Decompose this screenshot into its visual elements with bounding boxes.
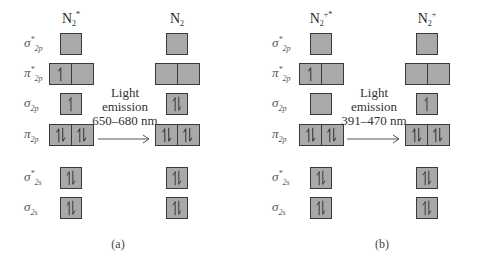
- orbital-subscript: 2p: [35, 74, 43, 83]
- electron-pair-icon: [417, 198, 437, 218]
- orbital-label-sigma-star-2s: σ*2s: [272, 169, 302, 187]
- orbital-label-sigma-star-2p: σ*2p: [272, 35, 302, 53]
- empty-orbital: [167, 34, 187, 54]
- orbital-label-pi-star-2p: π*2p: [272, 65, 302, 83]
- orbital-box-pi-star-2p: [49, 63, 94, 85]
- transition-arrow-icon: [98, 130, 150, 140]
- species-superscript: *: [76, 10, 80, 19]
- species-subscript: 2: [180, 19, 184, 28]
- orbital-subscript: 2p: [34, 44, 42, 53]
- empty-orbital: [177, 64, 199, 84]
- orbital-box-sigma-2p: [60, 93, 82, 115]
- species-superscript: +: [432, 10, 437, 19]
- orbital-subscript: 2p: [30, 104, 38, 113]
- species-subscript: 2: [320, 19, 324, 28]
- emission-label: Lightemission650–680 nm: [80, 86, 170, 128]
- orbital-box-sigma-star-2s: [60, 167, 82, 189]
- electron-up-icon: [61, 94, 81, 114]
- orbital-subscript: 2p: [283, 74, 291, 83]
- empty-orbital: [71, 64, 93, 84]
- emission-label: Lightemission391–470 nm: [329, 86, 419, 128]
- electron-pair-icon: [311, 168, 331, 188]
- orbital-box-sigma-star-2s: [416, 167, 438, 189]
- orbital-star: *: [30, 35, 34, 44]
- electron-pair-icon: [427, 125, 449, 145]
- empty-orbital: [156, 64, 178, 84]
- electron-pair-icon: [156, 125, 178, 145]
- electron-pair-icon: [167, 198, 187, 218]
- species-title: N2+: [402, 10, 452, 28]
- electron-pair-icon: [406, 125, 428, 145]
- orbital-box-sigma-star-2s: [166, 167, 188, 189]
- species-title: N2*: [46, 10, 96, 28]
- orbital-label-sigma-2s: σ2s: [24, 199, 54, 217]
- orbital-star: *: [278, 35, 282, 44]
- species-symbol: N: [310, 11, 320, 26]
- emission-text-line1: Light: [80, 86, 170, 100]
- orbital-box-sigma-2s: [166, 197, 188, 219]
- orbital-box-pi-star-2p: [299, 63, 344, 85]
- orbital-label-sigma-star-2p: σ*2p: [24, 35, 54, 53]
- electron-pair-icon: [321, 125, 343, 145]
- orbital-box-sigma-2s: [310, 197, 332, 219]
- orbital-subscript: 2s: [278, 208, 285, 217]
- empty-orbital: [61, 34, 81, 54]
- orbital-subscript: 2s: [34, 178, 41, 187]
- orbital-box-pi-star-2p: [155, 63, 200, 85]
- empty-orbital: [417, 34, 437, 54]
- species-title: N2: [152, 10, 202, 28]
- orbital-star: *: [31, 65, 35, 74]
- orbital-subscript: 2s: [282, 178, 289, 187]
- empty-orbital: [311, 94, 331, 114]
- orbital-box-sigma-star-2p: [166, 33, 188, 55]
- orbital-box-sigma-star-2p: [60, 33, 82, 55]
- electron-pair-icon: [61, 168, 81, 188]
- orbital-label-pi-2p: π2p: [272, 126, 302, 144]
- orbital-label-sigma-2s: σ2s: [272, 199, 302, 217]
- emission-text-line1: Light: [329, 86, 419, 100]
- emission-text-line3: 650–680 nm: [80, 114, 170, 128]
- orbital-box-sigma-star-2p: [310, 33, 332, 55]
- orbital-label-sigma-star-2s: σ*2s: [24, 169, 54, 187]
- species-title: N2+*: [296, 10, 346, 28]
- species-symbol: N: [170, 11, 180, 26]
- panel-caption: (b): [367, 237, 397, 252]
- species-subscript: 2: [72, 19, 76, 28]
- orbital-box-sigma-star-2p: [416, 33, 438, 55]
- electron-pair-icon: [417, 168, 437, 188]
- orbital-star: *: [279, 65, 283, 74]
- electron-up-icon: [50, 64, 72, 84]
- panel-caption: (a): [103, 237, 133, 252]
- species-subscript: 2: [428, 19, 432, 28]
- empty-orbital: [427, 64, 449, 84]
- orbital-subscript: 2p: [31, 135, 39, 144]
- electron-pair-icon: [71, 125, 93, 145]
- electron-up-icon: [300, 64, 322, 84]
- electron-pair-icon: [61, 198, 81, 218]
- electron-pair-icon: [50, 125, 72, 145]
- orbital-box-pi-star-2p: [405, 63, 450, 85]
- electron-pair-icon: [167, 168, 187, 188]
- electron-pair-icon: [300, 125, 322, 145]
- electron-pair-icon: [167, 94, 187, 114]
- emission-text-line3: 391–470 nm: [329, 114, 419, 128]
- orbital-box-sigma-star-2s: [310, 167, 332, 189]
- transition-arrow-icon: [347, 130, 400, 140]
- species-superscript: +*: [324, 10, 333, 19]
- orbital-star: *: [278, 169, 282, 178]
- electron-up-icon: [417, 94, 437, 114]
- orbital-box-sigma-2s: [60, 197, 82, 219]
- orbital-box-sigma-2s: [416, 197, 438, 219]
- emission-text-line2: emission: [80, 100, 170, 114]
- empty-orbital: [321, 64, 343, 84]
- species-symbol: N: [62, 11, 72, 26]
- orbital-box-sigma-2p: [416, 93, 438, 115]
- orbital-subscript: 2p: [279, 135, 287, 144]
- electron-pair-icon: [177, 125, 199, 145]
- orbital-subscript: 2p: [282, 44, 290, 53]
- empty-orbital: [311, 34, 331, 54]
- empty-orbital: [406, 64, 428, 84]
- emission-text-line2: emission: [329, 100, 419, 114]
- orbital-subscript: 2p: [278, 104, 286, 113]
- orbital-star: *: [30, 169, 34, 178]
